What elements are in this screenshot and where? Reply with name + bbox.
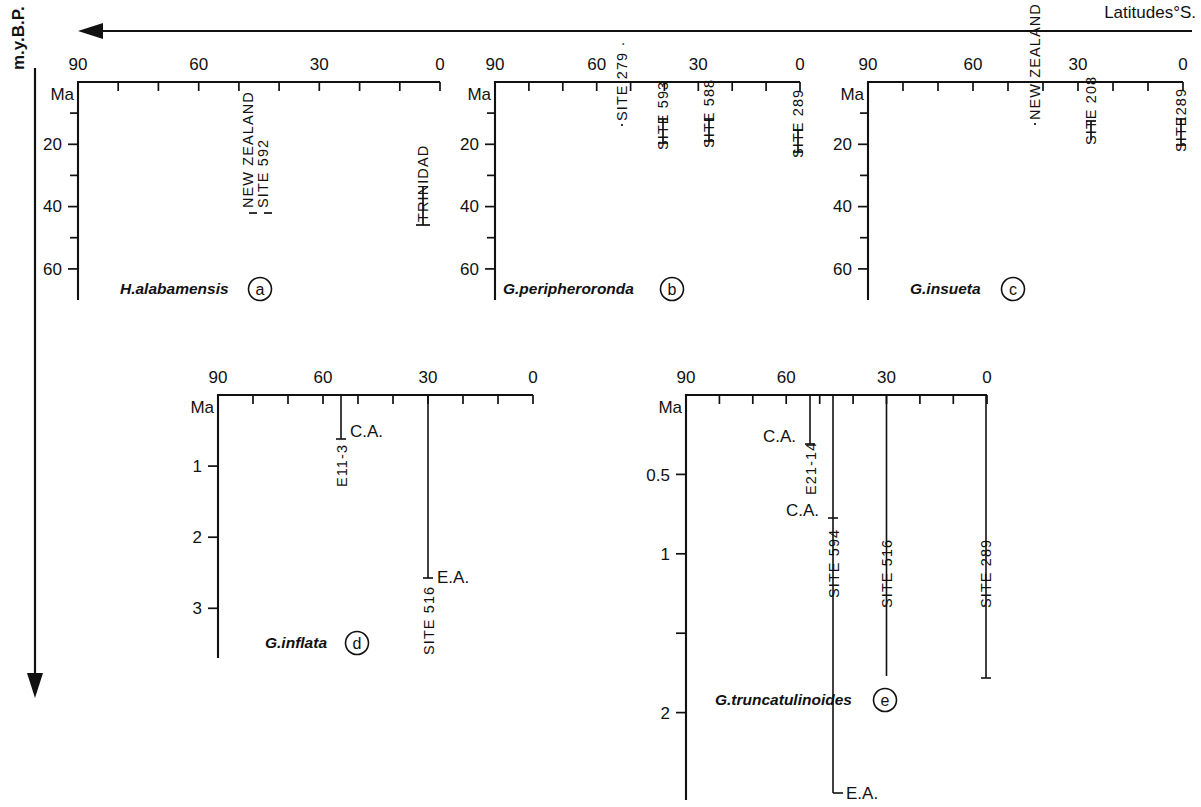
panel-e-record-site-594: C.A. E.A. SITE 594 — [786, 395, 878, 803]
panel-d-x-ticks — [253, 395, 533, 404]
panel-b-letter: b — [668, 281, 677, 298]
panel-e-record-e21-14: C.A. E21-14 — [763, 395, 819, 495]
panel-e-record-site-516: SITE 516 — [879, 395, 895, 676]
panel-d-y-ticks — [208, 466, 218, 608]
panel-a-record-trinidad: TRINIDAD — [415, 145, 431, 225]
panel-c-record-site-289: SITE289 — [1173, 88, 1189, 152]
site-label: SITE289 — [1173, 88, 1189, 152]
panel-a-xlabel-2: 30 — [310, 55, 329, 74]
site-label: SITE 594 — [826, 529, 842, 598]
panel-b-xlabel-0: 90 — [486, 55, 505, 74]
panel-c-record-new-zealand: NEW ZEALAND · — [1027, 0, 1043, 125]
panel-a-xlabel-0: 90 — [69, 55, 88, 74]
left-time-arrow — [27, 68, 43, 698]
panel-a-record-site-592: SITE 592 — [255, 139, 272, 213]
panel-e-xlabel-2: 30 — [877, 368, 896, 387]
panel-b-y-ticks — [485, 113, 495, 269]
panel-a-ylabel-2: 60 — [43, 260, 62, 279]
panel-b-species: G.peripheroronda — [503, 280, 634, 297]
panel-c-ylabel-1: 40 — [833, 197, 852, 216]
panel-b-record-site-588: SITE 588 — [701, 79, 717, 148]
site-label: SITE 593 — [655, 81, 671, 150]
site-label: TRINIDAD — [415, 145, 431, 222]
panel-d-y-origin: Ma — [190, 398, 214, 417]
site-label: SITE 289 — [978, 539, 994, 608]
panel-a-ylabel-0: 20 — [43, 135, 62, 154]
panel-c-letter: c — [1009, 281, 1017, 298]
panel-e-xlabel-3: 0 — [982, 368, 991, 387]
top-latitude-arrow — [78, 23, 1192, 39]
panel-e-ylabel-1: 1 — [661, 545, 670, 564]
top-axis-label: Latitudes°S. — [1104, 3, 1196, 22]
panel-a-xlabel-1: 60 — [189, 55, 208, 74]
panel-b-y-origin: Ma — [467, 85, 491, 104]
figure-canvas: Latitudes°S. m.y.B.P. 90 60 30 0 — [0, 0, 1201, 807]
panel-c-y-ticks — [858, 113, 868, 269]
site-label: NEW ZEALAND · — [1027, 0, 1043, 120]
site-label: E11-3 — [334, 444, 350, 487]
panel-a-ylabel-1: 40 — [43, 197, 62, 216]
panel-b-letter-badge: b — [661, 278, 684, 301]
panel-d-record-e11-3: C.A. E11-3 — [334, 395, 383, 487]
panel-e-species: G.truncatulinoides — [715, 691, 852, 708]
panel-a-y-origin: Ma — [50, 85, 74, 104]
panel-b-record-site-279: SITE 279 · — [614, 41, 630, 126]
panel-b-record-site-593: SITE 593 — [655, 81, 671, 150]
site-label: SITE 592 — [255, 139, 271, 208]
panel-e-y-origin: Ma — [658, 398, 682, 417]
panel-d-event-ca: C.A. — [350, 422, 383, 441]
panel-c: 90 60 30 0 Ma 20 40 60 NEW ZEALAND · SIT… — [833, 0, 1189, 301]
panel-a-y-ticks — [68, 113, 78, 269]
site-label: E21-14 — [803, 442, 819, 495]
panel-c-letter-badge: c — [1002, 278, 1025, 301]
site-label: SITE 588 — [701, 79, 717, 148]
panel-b-xlabel-3: 0 — [795, 55, 804, 74]
panel-e-event-ea: E.A. — [846, 784, 878, 803]
panel-c-x-ticks — [903, 82, 1183, 91]
panel-d-ylabel-1: 2 — [193, 528, 202, 547]
biostratigraphy-figure: Latitudes°S. m.y.B.P. 90 60 30 0 — [0, 0, 1201, 807]
panel-e-xlabel-0: 90 — [677, 368, 696, 387]
panel-b-ylabel-1: 40 — [460, 197, 479, 216]
panel-e-letter: e — [881, 692, 890, 709]
panel-c-ylabel-2: 60 — [833, 260, 852, 279]
panel-b-xlabel-2: 30 — [689, 55, 708, 74]
panel-d-species: G.inflata — [265, 634, 327, 651]
site-label: SITE 516 — [879, 539, 895, 608]
panel-c-xlabel-1: 60 — [964, 55, 983, 74]
panel-c-xlabel-3: 0 — [1178, 55, 1187, 74]
panel-d-xlabel-0: 90 — [209, 368, 228, 387]
panel-c-species: G.insueta — [910, 280, 981, 297]
panel-c-record-site-208: SITE 208 — [1083, 76, 1099, 145]
panel-d-xlabel-2: 30 — [419, 368, 438, 387]
panel-c-ylabel-0: 20 — [833, 135, 852, 154]
panel-a-xlabel-3: 0 — [435, 55, 444, 74]
panel-d-letter-badge: d — [346, 632, 369, 655]
site-label: SITE 208 — [1083, 76, 1099, 145]
panel-e-ylabel-0: 0.5 — [646, 466, 670, 485]
panel-a-x-ticks — [118, 82, 440, 91]
panel-e-ylabel-2: 2 — [661, 704, 670, 723]
site-label: SITE 516 — [421, 586, 437, 655]
panel-e-event-ca-2: C.A. — [786, 501, 819, 520]
panel-a: 90 60 30 0 Ma 20 40 60 NEW ZEALAND SITE … — [43, 55, 445, 301]
panel-d: 90 60 30 0 Ma 1 2 3 C.A. E11-3 E.A. SITE… — [190, 368, 537, 658]
panel-d-letter: d — [353, 635, 362, 652]
panel-d-xlabel-1: 60 — [314, 368, 333, 387]
panel-c-xlabel-2: 30 — [1069, 55, 1088, 74]
panel-a-species: H.alabamensis — [120, 280, 229, 297]
panel-a-letter-badge: a — [249, 278, 272, 301]
panel-b: 90 60 30 0 Ma 20 40 60 SITE 279 · SITE 5… — [460, 41, 806, 301]
panel-e-y-ticks — [676, 474, 686, 712]
panel-b-record-site-289: SITE 289 — [790, 89, 806, 158]
panel-e: 90 60 30 0 Ma 0.5 1 2 C.A. E21-14 C.A. E… — [646, 368, 994, 803]
panel-d-ylabel-0: 1 — [193, 457, 202, 476]
panel-b-ylabel-2: 60 — [460, 260, 479, 279]
panel-c-xlabel-0: 90 — [859, 55, 878, 74]
panel-e-event-ca-1: C.A. — [763, 427, 796, 446]
panel-e-record-site-289: SITE 289 — [978, 395, 994, 678]
panel-c-y-origin: Ma — [840, 85, 864, 104]
panel-b-ylabel-0: 20 — [460, 135, 479, 154]
panel-d-ylabel-2: 3 — [193, 599, 202, 618]
panel-b-xlabel-1: 60 — [587, 55, 606, 74]
